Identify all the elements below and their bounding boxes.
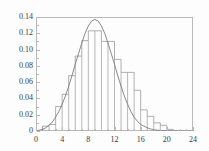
axis-tick-mark bbox=[37, 58, 39, 59]
y-axis-tick-labels: 00.020.040.060.080.100.120.14 bbox=[0, 0, 33, 151]
axis-tick-mark bbox=[134, 129, 135, 132]
x-tick-label: 0 bbox=[34, 136, 38, 144]
axis-tick-mark bbox=[37, 107, 39, 108]
axis-tick-mark bbox=[37, 25, 39, 26]
histogram-bars bbox=[43, 31, 174, 131]
axis-tick-mark bbox=[49, 129, 50, 132]
axis-tick-mark bbox=[37, 74, 39, 75]
axis-tick-mark bbox=[82, 129, 83, 132]
axis-tick-mark bbox=[62, 127, 63, 131]
axis-tick-mark bbox=[180, 129, 181, 132]
x-tick-label: 24 bbox=[189, 136, 197, 144]
axis-tick-mark bbox=[141, 127, 142, 131]
axis-tick-mark bbox=[37, 98, 40, 99]
axis-tick-mark bbox=[37, 17, 40, 18]
y-tick-label: 0.06 bbox=[19, 78, 33, 86]
y-tick-label: 0.08 bbox=[19, 62, 33, 70]
axis-tick-mark bbox=[108, 129, 109, 132]
axis-tick-mark bbox=[37, 115, 40, 116]
axis-tick-mark bbox=[128, 129, 129, 132]
x-tick-label: 8 bbox=[86, 136, 90, 144]
axis-tick-mark bbox=[69, 129, 70, 132]
axis-tick-mark bbox=[43, 129, 44, 132]
axis-tick-mark bbox=[37, 131, 40, 132]
axis-tick-mark bbox=[37, 82, 40, 83]
axis-tick-mark bbox=[173, 129, 174, 132]
plot-canvas bbox=[36, 17, 193, 131]
axis-tick-mark bbox=[75, 129, 76, 132]
axis-tick-mark bbox=[186, 129, 187, 132]
x-tick-label: 12 bbox=[111, 136, 119, 144]
axis-tick-mark bbox=[88, 127, 89, 131]
axis-tick-mark bbox=[147, 129, 148, 132]
y-tick-label: 0.04 bbox=[19, 94, 33, 102]
y-tick-label: 0.02 bbox=[19, 111, 33, 119]
axis-tick-mark bbox=[37, 66, 40, 67]
axis-tick-mark bbox=[154, 129, 155, 132]
axis-tick-mark bbox=[101, 129, 102, 132]
axis-tick-mark bbox=[160, 129, 161, 132]
axis-tick-mark bbox=[37, 50, 40, 51]
axis-tick-mark bbox=[37, 33, 40, 34]
axis-tick-mark bbox=[56, 129, 57, 132]
x-tick-label: 16 bbox=[137, 136, 145, 144]
axis-tick-mark bbox=[193, 127, 194, 131]
y-tick-label: 0 bbox=[29, 127, 33, 135]
y-tick-label: 0.10 bbox=[19, 46, 33, 54]
x-tick-label: 20 bbox=[163, 136, 171, 144]
axis-tick-mark bbox=[121, 129, 122, 132]
axis-tick-mark bbox=[115, 127, 116, 131]
histogram-figure: 00.020.040.060.080.100.120.14 0481216202… bbox=[0, 0, 209, 151]
axis-tick-mark bbox=[37, 123, 39, 124]
y-tick-label: 0.12 bbox=[19, 29, 33, 37]
axis-tick-mark bbox=[167, 127, 168, 131]
x-axis-tick-labels: 04812162024 bbox=[0, 136, 209, 148]
axis-tick-mark bbox=[37, 90, 39, 91]
axis-tick-mark bbox=[95, 129, 96, 132]
x-tick-label: 4 bbox=[60, 136, 64, 144]
axis-tick-mark bbox=[37, 41, 39, 42]
y-tick-label: 0.14 bbox=[19, 13, 33, 21]
